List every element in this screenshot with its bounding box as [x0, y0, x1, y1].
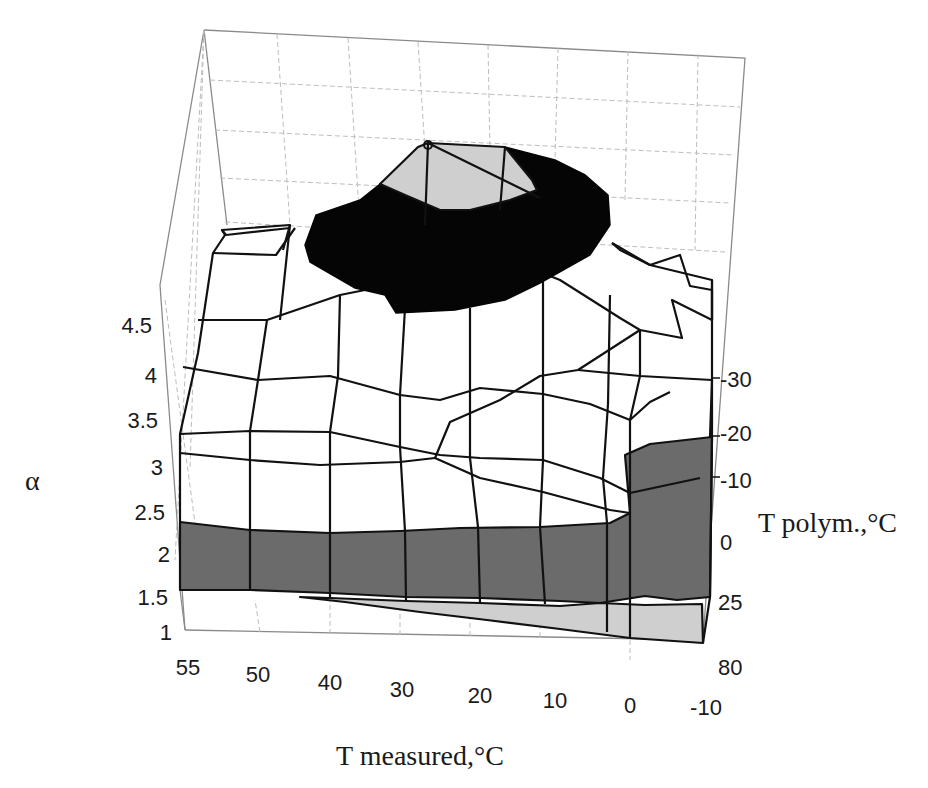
x-tick: 55: [176, 655, 200, 680]
z-tick: 3.5: [127, 408, 158, 433]
x-tick: 10: [543, 688, 567, 713]
y-axis: -30 -20 -10 0 25 80 T polym.,°C: [712, 367, 897, 680]
z-tick: 4: [145, 363, 157, 388]
x-tick: 20: [468, 683, 492, 708]
y-tick: 80: [718, 655, 742, 680]
z-tick: 1: [160, 620, 172, 645]
z-tick: 4.5: [121, 313, 152, 338]
x-axis: 55 50 40 30 20 10 0 -10 T measured,°C: [176, 655, 722, 771]
y-tick: -20: [720, 421, 752, 446]
x-tick: 50: [246, 662, 270, 687]
y-tick: 0: [720, 530, 732, 555]
x-tick: 40: [318, 670, 342, 695]
z-tick: 2.5: [134, 500, 165, 525]
z-tick: 3: [151, 455, 163, 480]
y-tick: 25: [718, 590, 742, 615]
y-tick: -10: [720, 468, 752, 493]
z-tick: 1.5: [137, 585, 168, 610]
y-axis-label: T polym.,°C: [758, 507, 897, 538]
x-tick: 0: [624, 693, 636, 718]
z-tick: 2: [158, 542, 170, 567]
x-tick: 30: [390, 677, 414, 702]
surface-plot: 4.5 4 3.5 3 2.5 2 1.5 1 α 55 50 40 30 20…: [0, 0, 928, 788]
z-axis-label: α: [25, 465, 40, 496]
z-axis: 4.5 4 3.5 3 2.5 2 1.5 1 α: [25, 313, 172, 645]
x-tick: -10: [690, 695, 722, 720]
y-tick: -30: [720, 367, 752, 392]
x-axis-label: T measured,°C: [336, 740, 504, 771]
